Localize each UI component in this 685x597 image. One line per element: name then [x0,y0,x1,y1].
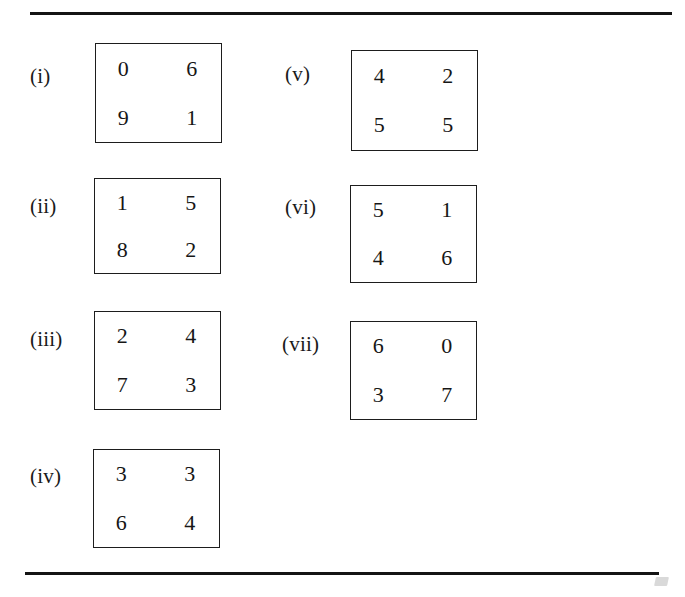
matrix-cell-v-r2c2: 5 [442,114,453,136]
matrix-cell-i-r2c2: 1 [186,107,197,129]
matrix-cell-iii-r2c2: 3 [185,374,196,396]
matrix-grid-iv: 3364 [94,450,219,547]
matrix-cell-iv-r2c1: 6 [116,512,127,534]
matrix-grid-vi: 5146 [351,186,476,282]
matrix-cell-ii-r1c1: 1 [117,192,128,214]
matrix-cell-v-r1c1: 4 [374,65,385,87]
matrix-grid-v: 4255 [352,51,477,150]
matrix-cell-ii-r1c2: 5 [185,192,196,214]
matrix-label-vi: (vi) [285,197,316,218]
matrix-cell-iv-r1c1: 3 [116,463,127,485]
matrix-cell-iii-r1c1: 2 [117,325,128,347]
matrix-grid-ii: 1582 [95,179,220,273]
matrix-cell-vi-r1c1: 5 [373,199,384,221]
matrix-cell-vii-r1c1: 6 [373,335,384,357]
matrix-cell-i-r2c1: 9 [118,107,129,129]
matrix-cell-i-r1c1: 0 [118,58,129,80]
matrix-cell-vi-r2c2: 6 [441,247,452,269]
matrix-cell-v-r2c1: 5 [374,114,385,136]
matrix-box-iii: 2473 [94,311,221,410]
matrix-grid-i: 0691 [96,44,221,142]
matrix-label-iv: (iv) [30,466,61,487]
matrix-label-iii: (iii) [30,329,63,350]
matrix-cell-ii-r2c2: 2 [185,239,196,261]
matrix-cell-iv-r1c2: 3 [184,463,195,485]
matrix-cell-vii-r2c2: 7 [441,384,452,406]
document-page: (i)0691(ii)1582(iii)2473(iv)3364(v)4255(… [0,0,685,597]
matrix-cell-ii-r2c1: 8 [117,239,128,261]
matrix-box-ii: 1582 [94,178,221,274]
matrix-cell-vii-r2c1: 3 [373,384,384,406]
matrix-cell-vi-r1c2: 1 [441,199,452,221]
matrix-label-ii: (ii) [30,196,56,217]
matrix-label-i: (i) [30,66,50,87]
matrix-cell-iv-r2c2: 4 [184,512,195,534]
matrix-cell-v-r1c2: 2 [442,65,453,87]
matrix-label-vii: (vii) [282,334,319,355]
matrix-box-iv: 3364 [93,449,220,548]
matrix-cell-vii-r1c2: 0 [441,335,452,357]
matrix-cell-iii-r2c1: 7 [117,374,128,396]
matrix-box-vi: 5146 [350,185,477,283]
bottom-horizontal-rule [25,572,659,575]
matrix-cell-iii-r1c2: 4 [185,325,196,347]
matrix-cell-i-r1c2: 6 [186,58,197,80]
matrix-box-i: 0691 [95,43,222,143]
top-horizontal-rule [30,12,672,15]
matrix-cell-vi-r2c1: 4 [373,247,384,269]
matrix-grid-vii: 6037 [351,322,476,419]
matrix-box-vii: 6037 [350,321,477,420]
matrix-label-v: (v) [285,64,310,85]
matrix-box-v: 4255 [351,50,478,151]
matrix-grid-iii: 2473 [95,312,220,409]
scan-smudge-artifact [654,577,669,586]
